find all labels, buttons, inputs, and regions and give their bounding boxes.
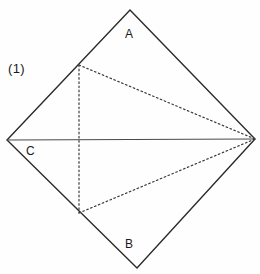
- vertex-label-b: B: [125, 238, 133, 250]
- vertex-label-c: C: [26, 145, 35, 157]
- horizontal-diagonal-line: [7, 139, 255, 140]
- geometry-figure: (1) A B C: [0, 0, 260, 274]
- upper-dotted-chord: [79, 65, 255, 139]
- figure-canvas: [0, 0, 260, 274]
- lower-dotted-chord: [79, 139, 255, 213]
- figure-number-label: (1): [8, 62, 25, 75]
- vertex-label-a: A: [125, 28, 133, 40]
